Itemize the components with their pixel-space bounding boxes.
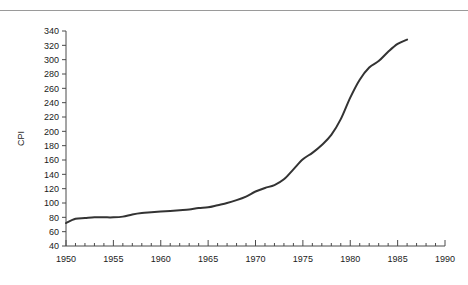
y-axis-title-label: CPI xyxy=(16,131,26,146)
x-tick-label: 1955 xyxy=(103,254,123,264)
cpi-line-chart: 4060801001201401601802002202402602803003… xyxy=(0,11,468,285)
chart-page: ··· ··· 40608010012014016018020022024026… xyxy=(0,0,468,285)
series-cpi-line xyxy=(66,40,407,223)
y-tick-label: 140 xyxy=(44,170,59,180)
x-axis: 195019551960196519701975198019851990 xyxy=(56,240,455,264)
x-tick-label: 1950 xyxy=(56,254,76,264)
x-tick-label: 1975 xyxy=(293,254,313,264)
y-tick-label: 60 xyxy=(49,227,59,237)
clipped-header-caption: ··· ··· xyxy=(0,0,220,4)
y-tick-label: 300 xyxy=(44,55,59,65)
x-tick-label: 1985 xyxy=(388,254,408,264)
y-tick-label: 220 xyxy=(44,112,59,122)
y-tick-label: 100 xyxy=(44,198,59,208)
y-tick-label: 160 xyxy=(44,155,59,165)
x-tick-label: 1980 xyxy=(340,254,360,264)
y-tick-label: 40 xyxy=(49,241,59,251)
chart-canvas: 4060801001201401601802002202402602803003… xyxy=(0,11,468,285)
y-tick-label: 200 xyxy=(44,127,59,137)
x-tick-label: 1965 xyxy=(198,254,218,264)
y-tick-label: 320 xyxy=(44,41,59,51)
y-tick-label: 120 xyxy=(44,184,59,194)
x-tick-label: 1960 xyxy=(151,254,171,264)
y-tick-label: 260 xyxy=(44,84,59,94)
y-tick-label: 80 xyxy=(49,213,59,223)
y-tick-label: 240 xyxy=(44,98,59,108)
y-tick-label: 280 xyxy=(44,69,59,79)
x-tick-label: 1990 xyxy=(435,254,455,264)
x-tick-label: 1970 xyxy=(245,254,265,264)
series-cpi xyxy=(66,40,407,223)
y-tick-label: 340 xyxy=(44,26,59,36)
y-axis-title: CPI xyxy=(16,131,26,146)
y-axis: 4060801001201401601802002202402602803003… xyxy=(44,26,66,251)
y-tick-label: 180 xyxy=(44,141,59,151)
